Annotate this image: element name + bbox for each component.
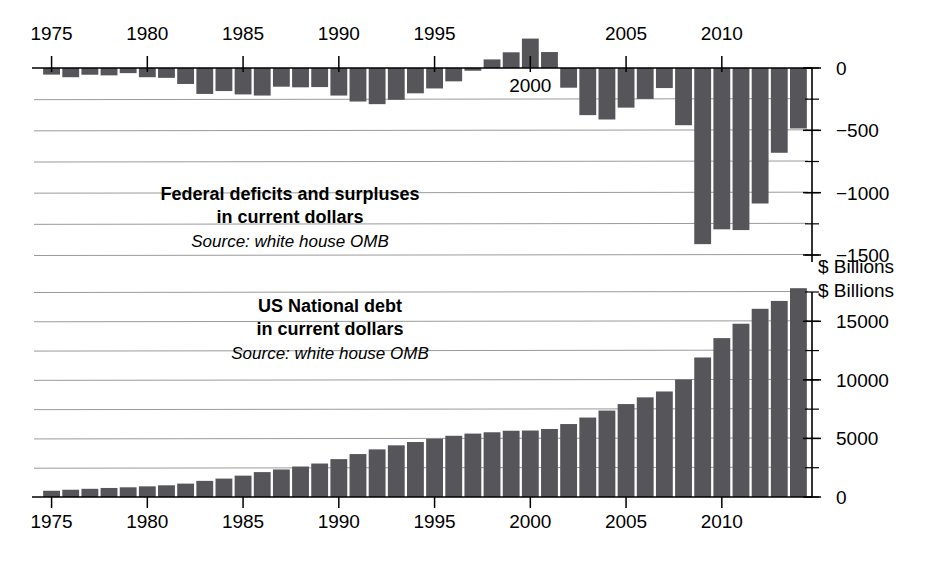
bar (43, 491, 60, 497)
debt-source: Source: white house OMB (231, 344, 428, 363)
bar (254, 68, 271, 96)
debt-bars (43, 288, 807, 497)
deficits-title-line1: Federal deficits and surpluses (160, 184, 419, 204)
bar (350, 454, 367, 497)
y-tick-label: 0 (836, 487, 847, 508)
bar (216, 68, 233, 91)
bar (273, 68, 290, 87)
bar (81, 489, 98, 497)
bar (656, 68, 673, 88)
bar (311, 68, 328, 87)
y-tick-label: −500 (836, 120, 879, 141)
bar (235, 476, 252, 497)
bar (560, 68, 577, 88)
bar (752, 309, 769, 497)
x-tick-label: 1990 (318, 511, 360, 532)
bar (579, 68, 596, 115)
bar (445, 68, 462, 81)
bar (618, 68, 635, 108)
bar (790, 288, 807, 497)
bar (713, 338, 730, 497)
bar (120, 487, 137, 497)
x-tick-label: 1980 (126, 511, 168, 532)
x-tick-label: 2005 (605, 511, 647, 532)
debt-units-label: $ Billions (818, 280, 894, 301)
bar (752, 68, 769, 204)
y-tick-label: 15000 (836, 311, 889, 332)
y-tick-label: 10000 (836, 370, 889, 391)
bar (196, 481, 213, 497)
chart-svg: 19751980198519901995200020052010 0−500−1… (0, 0, 930, 561)
bar (292, 467, 309, 497)
bar (158, 68, 175, 78)
bar (484, 59, 501, 68)
bar (292, 68, 309, 87)
bar (388, 68, 405, 100)
bar (273, 469, 290, 497)
y-tick-label: 0 (836, 58, 847, 79)
x-tick-label: 1995 (413, 511, 455, 532)
x-tick-label: 2010 (701, 23, 743, 44)
bar (216, 479, 233, 497)
bar (694, 357, 711, 497)
bar (311, 464, 328, 497)
bar (101, 68, 118, 75)
x-tick-label: 2005 (605, 23, 647, 44)
bar (139, 486, 156, 497)
bar (177, 484, 194, 497)
debt-y-tick-labels: 050001000015000 (836, 311, 889, 508)
deficits-panel: 19751980198519901995200020052010 0−500−1… (30, 23, 894, 277)
deficits-x-tick-labels: 19751980198519901995200020052010 (30, 23, 743, 96)
bar (62, 490, 79, 497)
bar (541, 52, 558, 68)
bar (790, 68, 807, 128)
x-tick-label: 1990 (318, 23, 360, 44)
x-tick-label: 1985 (222, 511, 264, 532)
bar (177, 68, 194, 84)
bar (426, 439, 443, 497)
bar (369, 68, 386, 104)
bar (771, 68, 788, 153)
bar (771, 301, 788, 497)
bar (675, 68, 692, 125)
y-tick-label: 5000 (836, 428, 878, 449)
bar (599, 411, 616, 497)
bar (713, 68, 730, 229)
bar (618, 404, 635, 497)
bar (733, 324, 750, 497)
bar (637, 397, 654, 497)
y-tick-label: −1000 (836, 183, 889, 204)
bar (541, 429, 558, 497)
bar (675, 380, 692, 497)
deficits-source: Source: white house OMB (191, 232, 388, 251)
bar (656, 391, 673, 497)
debt-title-line2: in current dollars (256, 319, 403, 339)
x-tick-label: 1980 (126, 23, 168, 44)
debt-title-line1: US National debt (258, 296, 402, 316)
bar (330, 459, 347, 497)
bar (388, 445, 405, 497)
bar (445, 436, 462, 497)
x-tick-label: 1975 (30, 23, 72, 44)
bar (369, 449, 386, 497)
bar (579, 418, 596, 497)
bar (733, 68, 750, 230)
bar (158, 485, 175, 497)
bar (254, 472, 271, 497)
deficits-title-line2: in current dollars (216, 207, 363, 227)
deficits-bars (43, 39, 807, 245)
x-tick-label: 2000 (509, 511, 551, 532)
bar (599, 68, 616, 119)
x-tick-label: 1975 (30, 511, 72, 532)
x-tick-label: 2010 (701, 511, 743, 532)
bar (330, 68, 347, 96)
bar (196, 68, 213, 94)
bar (560, 424, 577, 497)
x-tick-label: 2000 (509, 75, 551, 96)
deficits-units-label: $ Billions (818, 256, 894, 277)
x-tick-label: 1985 (222, 23, 264, 44)
debt-x-tick-labels: 19751980198519901995200020052010 (30, 511, 743, 532)
bar (484, 432, 501, 497)
x-tick-label: 1995 (413, 23, 455, 44)
bar (350, 68, 367, 102)
